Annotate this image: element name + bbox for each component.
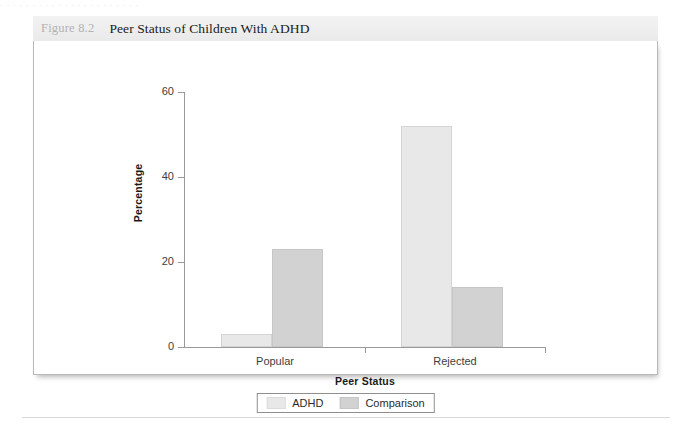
page-bottom-rule — [22, 417, 670, 418]
figure-block: Figure 8.2 Peer Status of Children With … — [33, 16, 658, 375]
y-tick-label-60: 60 — [162, 85, 174, 97]
y-tick-20: 20 — [178, 262, 184, 263]
x-category-label-popular: Popular — [256, 355, 294, 367]
bar-rejected-adhd — [401, 126, 452, 347]
x-category-label-rejected: Rejected — [433, 355, 476, 367]
y-tick-0: 0 — [178, 347, 184, 348]
chart-legend: ADHD Comparison — [256, 393, 434, 413]
bar-popular-comparison — [272, 249, 323, 347]
bar-popular-adhd — [221, 334, 272, 347]
y-tick-40: 40 — [178, 177, 184, 178]
legend-swatch-adhd — [266, 397, 285, 409]
y-tick-label-20: 20 — [162, 255, 174, 267]
legend-label-comparison: Comparison — [365, 397, 424, 409]
x-tick-right — [545, 347, 546, 353]
x-tick-center — [365, 347, 366, 353]
legend-item-adhd: ADHD — [266, 397, 323, 409]
plot-area: 0 20 40 60 Percentage Peer Status Popula… — [34, 41, 657, 374]
legend-swatch-comparison — [339, 397, 358, 409]
page-top-text-strip: · · · · · · · · · · · · · · · · · · · · … — [0, 0, 691, 10]
y-tick-label-40: 40 — [162, 170, 174, 182]
bar-rejected-comparison — [452, 287, 503, 347]
figure-number: Figure 8.2 — [41, 21, 94, 36]
legend-item-comparison: Comparison — [339, 397, 424, 409]
figure-title: Peer Status of Children With ADHD — [109, 21, 309, 37]
x-axis-title: Peer Status — [335, 375, 395, 387]
figure-caption-band: Figure 8.2 Peer Status of Children With … — [33, 16, 658, 41]
legend-label-adhd: ADHD — [292, 397, 323, 409]
y-tick-60: 60 — [178, 92, 184, 93]
y-tick-label-0: 0 — [168, 340, 174, 352]
y-axis-title: Percentage — [132, 164, 144, 223]
chart-container: 0 20 40 60 Percentage Peer Status Popula… — [33, 41, 658, 375]
y-axis-line — [184, 92, 185, 348]
